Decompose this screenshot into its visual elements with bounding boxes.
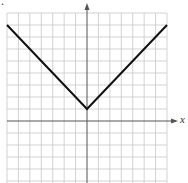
- coordinate-plane: [0, 0, 188, 183]
- x-axis-arrow-icon: [171, 119, 178, 124]
- y-axis-arrow-icon: [85, 3, 90, 10]
- x-axis-label: x: [180, 113, 185, 125]
